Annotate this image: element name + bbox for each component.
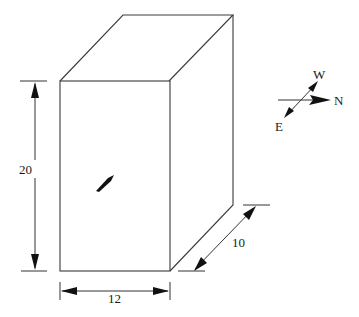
- width-dimension: 12: [60, 282, 170, 306]
- direction-arrow-icon: [96, 175, 114, 192]
- box-side-face: [170, 15, 233, 271]
- arrow-up-icon: [31, 82, 39, 98]
- depth-label: 10: [232, 235, 245, 250]
- height-label: 20: [19, 162, 32, 177]
- box-front-face: [60, 81, 170, 271]
- height-dimension: 20: [18, 81, 47, 271]
- arrow-down-icon: [31, 254, 39, 270]
- compass: N W E: [275, 67, 344, 134]
- box: [60, 15, 233, 271]
- compass-north-label: N: [334, 93, 344, 108]
- compass-west-label: W: [313, 67, 326, 82]
- compass-east-label: E: [275, 119, 283, 134]
- arrow-left-icon: [61, 287, 77, 295]
- box-top-face: [60, 15, 233, 81]
- box-diagram: 20 12 10 N W E: [0, 0, 359, 317]
- width-label: 12: [108, 291, 121, 306]
- arrow-right-icon: [153, 287, 169, 295]
